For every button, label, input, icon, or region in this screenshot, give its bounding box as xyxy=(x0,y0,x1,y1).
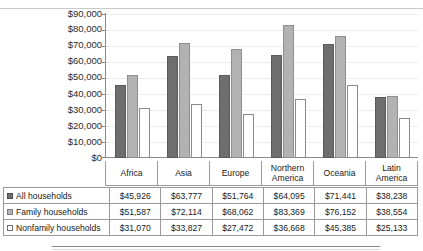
y-tick-label: $30,000 xyxy=(68,105,102,115)
bar-group xyxy=(314,13,366,158)
bar xyxy=(323,44,334,158)
category-header-cell: Asia xyxy=(158,161,210,186)
bar xyxy=(115,85,126,158)
y-tick-label: $70,000 xyxy=(68,40,102,50)
y-tick-label: $90,000 xyxy=(68,9,102,19)
value-cell: $83,369 xyxy=(263,204,314,220)
bar-group xyxy=(210,13,262,158)
cut-off-title-text xyxy=(150,0,290,6)
bar-groups xyxy=(106,13,418,158)
chart-page: $90,000 $80,000 $70,000 $60,000 $50,000 … xyxy=(0,0,423,251)
value-cell: $33,827 xyxy=(161,220,212,236)
y-tick-label: $50,000 xyxy=(68,72,102,82)
value-cell: $51,764 xyxy=(212,188,263,204)
bar xyxy=(375,97,386,158)
bar xyxy=(127,75,138,158)
value-cell: $36,668 xyxy=(263,220,314,236)
bottom-caption-divider xyxy=(52,246,380,247)
value-cell: $45,385 xyxy=(315,220,366,236)
value-cell: $45,926 xyxy=(110,188,161,204)
y-tick-label: $20,000 xyxy=(68,121,102,131)
bar xyxy=(399,118,410,158)
category-header-table: Africa Asia Europe Northern America Ocea… xyxy=(105,161,418,186)
category-header-cell: Northern America xyxy=(262,161,314,186)
bar xyxy=(139,108,150,158)
value-cell: $38,554 xyxy=(366,204,417,220)
bar xyxy=(231,49,242,158)
legend-item-all-households: All households xyxy=(4,188,110,204)
bar-group xyxy=(106,13,158,158)
bar xyxy=(347,85,358,158)
bar-group xyxy=(366,13,418,158)
legend-swatch-icon xyxy=(7,209,13,215)
legend-item-family-households: Family households xyxy=(4,204,110,220)
bar xyxy=(283,25,294,158)
value-cell: $68,062 xyxy=(212,204,263,220)
legend-swatch-icon xyxy=(7,193,13,199)
value-cell: $72,114 xyxy=(161,204,212,220)
table-row: All households $45,926 $63,777 $51,764 $… xyxy=(4,188,418,204)
bar xyxy=(219,75,230,158)
y-tick-label: $10,000 xyxy=(68,137,102,147)
value-cell: $51,587 xyxy=(110,204,161,220)
legend-item-nonfamily-households: Nonfamily households xyxy=(4,220,110,236)
bar xyxy=(167,56,178,158)
value-cell: $25,133 xyxy=(366,220,417,236)
bar xyxy=(271,55,282,158)
value-cell: $76,152 xyxy=(315,204,366,220)
legend-label: Nonfamily households xyxy=(16,223,101,233)
y-tick-label: $60,000 xyxy=(68,56,102,66)
table-row: Nonfamily households $31,070 $33,827 $27… xyxy=(4,220,418,236)
category-header-cell: Africa xyxy=(106,161,158,186)
category-header-cell: Latin America xyxy=(366,161,418,186)
bar-group xyxy=(158,13,210,158)
bar xyxy=(295,99,306,158)
value-cell: $63,777 xyxy=(161,188,212,204)
y-tick-label: $0 xyxy=(91,153,102,163)
top-divider xyxy=(0,8,423,9)
plot-area: $90,000 $80,000 $70,000 $60,000 $50,000 … xyxy=(0,13,423,165)
legend-swatch-icon xyxy=(7,225,13,231)
value-cell: $38,238 xyxy=(366,188,417,204)
value-cell: $31,070 xyxy=(110,220,161,236)
value-cell: $71,441 xyxy=(315,188,366,204)
legend-label: Family households xyxy=(16,207,88,217)
y-axis-labels: $90,000 $80,000 $70,000 $60,000 $50,000 … xyxy=(40,13,102,165)
bar xyxy=(179,43,190,158)
values-table: All households $45,926 $63,777 $51,764 $… xyxy=(3,187,418,236)
category-header-cell: Europe xyxy=(210,161,262,186)
bar-group xyxy=(262,13,314,158)
category-header-cell: Oceania xyxy=(314,161,366,186)
bottom-caption-divider-secondary xyxy=(52,249,380,250)
y-tick-label: $40,000 xyxy=(68,89,102,99)
table-row: Africa Asia Europe Northern America Ocea… xyxy=(106,161,418,186)
bar xyxy=(387,96,398,158)
legend-label: All households xyxy=(16,191,72,201)
value-cell: $64,095 xyxy=(263,188,314,204)
y-tick-label: $80,000 xyxy=(68,24,102,34)
value-cell: $27,472 xyxy=(212,220,263,236)
bar xyxy=(191,104,202,158)
table-row: Family households $51,587 $72,114 $68,06… xyxy=(4,204,418,220)
bar xyxy=(243,114,254,158)
bar xyxy=(335,36,346,158)
